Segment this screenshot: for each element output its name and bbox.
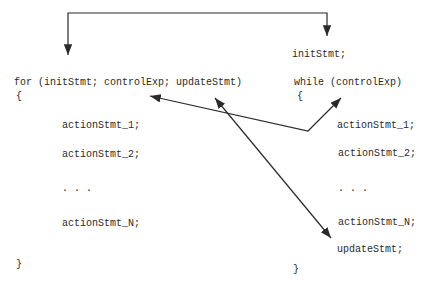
while-open-brace: {: [297, 91, 303, 103]
for-body-statement: actionStmt_1;: [62, 120, 140, 132]
while-close-brace: }: [293, 264, 299, 276]
for-body-statement: actionStmt_2;: [62, 149, 140, 161]
initstmt-mapping-arrow: [68, 13, 327, 55]
while-body-statement: actionStmt_1;: [337, 120, 415, 132]
while-init-statement: initStmt;: [292, 49, 346, 61]
for-body-ellipsis: . . .: [62, 183, 92, 195]
while-update-statement: updateStmt;: [337, 244, 403, 256]
for-header-line: for (initStmt; controlExp; updateStmt): [14, 77, 242, 89]
while-body-statement: actionStmt_2;: [338, 148, 416, 160]
for-while-equivalence-diagram: for (initStmt; controlExp; updateStmt) {…: [0, 0, 432, 289]
while-header-line: while (controlExp): [294, 77, 402, 89]
while-body-statement: actionStmt_N;: [338, 217, 416, 229]
updatestmt-mapping-arrow: [215, 98, 331, 238]
controlexp-mapping-arrow: [150, 96, 341, 131]
for-close-brace: }: [16, 259, 22, 271]
while-body-ellipsis: . . .: [338, 183, 368, 195]
for-body-statement: actionStmt_N;: [62, 218, 140, 230]
for-open-brace: {: [16, 91, 22, 103]
